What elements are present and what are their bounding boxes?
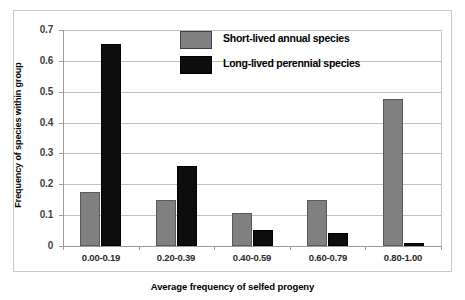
y-tick-label: 0.1 xyxy=(23,209,53,220)
legend-item-short-lived-annual-species: Short-lived annual species xyxy=(180,28,390,53)
x-tick-mark xyxy=(214,246,215,250)
legend-item-long-lived-perennial-species: Long-lived perennial species xyxy=(180,53,390,78)
bar-long-lived-0.20-0.39 xyxy=(177,166,197,246)
x-tick-label: 0.80-1.00 xyxy=(358,252,448,263)
bar-long-lived-0.60-0.79 xyxy=(328,233,348,246)
bar-short-lived-0.40-0.59 xyxy=(232,213,252,246)
bar-short-lived-0.00-0.19 xyxy=(80,192,100,246)
y-axis-title: Frequency of species within group xyxy=(13,35,23,235)
bar-short-lived-0.20-0.39 xyxy=(156,200,176,246)
x-tick-mark xyxy=(290,246,291,250)
y-tick-label: 0.4 xyxy=(23,117,53,128)
bar-long-lived-0.00-0.19 xyxy=(101,44,121,246)
bar-long-lived-0.40-0.59 xyxy=(253,230,273,246)
bar-short-lived-0.60-0.79 xyxy=(307,200,327,246)
chart-legend: Short-lived annual species Long-lived pe… xyxy=(180,28,390,78)
y-tick-label: 0.3 xyxy=(23,147,53,158)
x-tick-mark xyxy=(441,246,442,250)
y-tick-label: 0.5 xyxy=(23,86,53,97)
bar-long-lived-0.80-1.00 xyxy=(404,243,424,246)
y-tick-label: 0 xyxy=(23,240,53,251)
legend-swatch-icon xyxy=(180,31,212,49)
x-tick-mark xyxy=(365,246,366,250)
legend-item-label: Short-lived annual species xyxy=(223,32,350,44)
gridline xyxy=(63,246,441,247)
chart-figure: Frequency of species within group 00.10.… xyxy=(0,0,465,300)
legend-item-label: Long-lived perennial species xyxy=(223,57,360,69)
legend-swatch-icon xyxy=(180,56,212,74)
plot-right-border xyxy=(441,30,442,246)
x-tick-mark xyxy=(139,246,140,250)
x-axis-title: Average frequency of selfed progeny xyxy=(0,281,465,292)
y-tick-label: 0.2 xyxy=(23,178,53,189)
y-tick-label: 0.7 xyxy=(23,24,53,35)
x-tick-mark xyxy=(63,246,64,250)
bar-short-lived-0.80-1.00 xyxy=(383,99,403,246)
y-tick-label: 0.6 xyxy=(23,55,53,66)
